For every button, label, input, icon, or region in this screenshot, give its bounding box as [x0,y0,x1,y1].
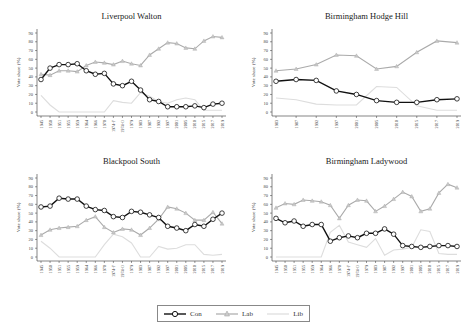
con-marker [129,79,134,84]
con-marker [446,243,451,248]
x-tick-label: 1970 [102,120,107,128]
con-marker [184,228,189,233]
x-tick-label: 1997 [400,265,405,273]
x-tick-label: 1987 [382,265,387,273]
con-marker [435,97,440,102]
y-tick-label: 20 [264,92,269,97]
con-marker [120,83,125,88]
series-con-line [276,80,457,103]
x-tick-label: 1970 [102,265,107,273]
x-tick-label: 2005 [418,265,423,273]
con-marker [310,222,315,227]
con-marker [57,62,62,67]
chart-birmingham-ladywood: Birmingham Ladywood0102030405060708090Vo… [235,145,469,290]
x-tick-label: 1974-O [355,265,360,278]
con-marker [93,207,98,212]
x-tick-label: 1997 [334,120,339,128]
con-line-circle-icon [164,310,186,318]
legend-item-lab: Lab [216,310,253,318]
y-tick-label: 90 [264,176,269,181]
y-tick-label: 0 [266,255,269,260]
y-tick-label: 20 [29,92,34,97]
con-marker [319,222,324,227]
y-tick-label: 20 [264,237,269,242]
y-tick-label: 90 [29,176,34,181]
con-marker [202,105,207,110]
x-tick-label: 1951 [292,265,297,273]
con-marker [202,224,207,229]
x-tick-label: 1997 [165,120,170,128]
x-tick-label: 1979 [129,120,134,128]
con-marker [337,235,342,240]
legend-label-con: Con [190,310,202,318]
y-tick-label: 0 [31,110,34,115]
x-tick-label: 1987 [147,120,152,128]
x-tick-label: 2010 [427,265,432,273]
con-marker [66,197,71,202]
y-tick-label: 80 [264,184,269,189]
y-tick-label: 50 [29,66,34,71]
x-tick-label: 1966 [93,120,98,128]
x-tick-label: 2015 [436,265,441,273]
y-tick-label: 60 [29,57,34,62]
x-tick-label: 1970 [337,265,342,273]
lab-line-triangle-icon [216,310,238,318]
x-tick-label: 1951 [57,120,62,128]
x-tick-label: 2010 [394,120,399,128]
y-axis-label: Vote share (%) [251,202,256,232]
chart-title: Birmingham Ladywood [326,156,408,166]
x-tick-label: 1992 [314,120,319,128]
chart-liverpool-walton: Liverpool Walton0102030405060708090Vote … [0,0,234,145]
con-marker [84,68,89,73]
x-tick-label: 1974-F [346,264,351,277]
con-marker [301,224,306,229]
x-tick-label: 1964 [84,119,89,128]
x-tick-label: 1964 [319,264,324,273]
con-marker [346,234,351,239]
y-tick-label: 0 [266,110,269,115]
x-tick-label: 2015 [201,265,206,273]
series-lib-line [41,234,222,257]
y-tick-label: 80 [29,184,34,189]
x-tick-label: 1964 [84,264,89,273]
x-tick-label: 1974-O [120,265,125,278]
x-tick-label: 2019 [220,120,225,128]
y-tick-label: 70 [29,48,34,53]
legend-label-lib: Lib [293,310,303,318]
lab-marker [211,210,215,214]
con-marker [220,211,225,216]
con-marker [75,61,80,66]
con-marker [39,205,44,210]
x-tick-label: 1959 [75,265,80,273]
con-marker [328,239,333,244]
con-marker [374,98,379,103]
x-tick-label: 1987 [294,120,299,128]
x-tick-label: 1974-F [111,264,116,277]
y-tick-label: 90 [29,31,34,36]
x-tick-label: 1945 [274,265,279,273]
x-tick-label: 2019 [220,265,225,273]
x-tick-label: 2005 [183,265,188,273]
con-marker [274,79,279,84]
y-tick-label: 10 [264,101,269,106]
con-marker [391,232,396,237]
y-tick-label: 90 [264,31,269,36]
lab-marker [93,215,97,219]
chart-title: Birmingham Hodge Hill [325,11,409,21]
x-tick-label: 1951 [57,265,62,273]
con-marker [274,216,279,221]
con-marker [193,222,198,227]
y-axis-label: Vote share (%) [16,202,21,232]
lab-marker [401,190,405,194]
y-axis-label: Vote share (%) [16,57,21,87]
x-tick-label: 2001 [174,265,179,273]
y-tick-label: 20 [29,237,34,242]
x-tick-label: 2017 [210,120,215,128]
y-tick-label: 30 [29,83,34,88]
con-marker [354,92,359,97]
chart-svg: Birmingham Ladywood0102030405060708090Vo… [235,145,469,290]
x-tick-label: 2019 [455,265,460,273]
con-marker [39,77,44,82]
x-tick-label: 1983 [138,120,143,128]
con-marker [66,62,71,67]
